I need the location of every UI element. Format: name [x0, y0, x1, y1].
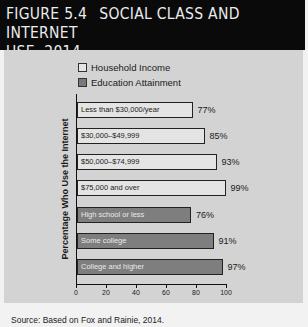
bar: $50,000–$74,999: [77, 154, 217, 170]
bar-value-label: 91%: [219, 233, 237, 249]
bar-value-label: 97%: [228, 259, 246, 275]
bar-value-label: 93%: [222, 154, 240, 170]
bar-value-label: 99%: [231, 180, 249, 196]
x-tick: [106, 284, 107, 288]
x-tick-label: 40: [132, 289, 140, 296]
bar: College and higher: [77, 259, 223, 275]
bar: Less than $30,000/year: [77, 102, 193, 118]
y-axis-label: Percentage Who Use the Internet: [58, 99, 72, 279]
bar: $75,000 and over: [77, 180, 226, 196]
x-tick: [226, 284, 227, 288]
legend-swatch-light: [78, 63, 87, 72]
legend-swatch-dark: [78, 78, 87, 87]
x-tick-label: 100: [220, 289, 232, 296]
figure-title-bar: FIGURE 5.4SOCIAL CLASS AND INTERNET USE,…: [0, 0, 305, 50]
bar-value-label: 85%: [210, 128, 228, 144]
figure-number: FIGURE 5.4: [6, 5, 87, 23]
x-axis-line: [76, 284, 227, 285]
x-tick-label: 80: [192, 289, 200, 296]
bar: Some college: [77, 233, 214, 249]
bar-value-label: 77%: [198, 102, 216, 118]
legend-label: Household Income: [91, 62, 170, 73]
chart-legend: Household Income Education Attainment: [78, 60, 181, 90]
x-tick: [136, 284, 137, 288]
bar: $30,000–$49,999: [77, 128, 205, 144]
x-tick: [76, 284, 77, 288]
x-tick: [196, 284, 197, 288]
legend-label: Education Attainment: [91, 77, 181, 88]
bar: High school or less: [77, 207, 191, 223]
legend-item-household-income: Household Income: [78, 60, 181, 75]
x-tick-label: 0: [74, 289, 78, 296]
legend-item-education-attainment: Education Attainment: [78, 75, 181, 90]
bar-value-label: 76%: [196, 207, 214, 223]
x-tick-label: 20: [102, 289, 110, 296]
source-note: Source: Based on Fox and Rainie, 2014.: [11, 315, 164, 325]
x-tick-label: 60: [162, 289, 170, 296]
x-tick: [166, 284, 167, 288]
